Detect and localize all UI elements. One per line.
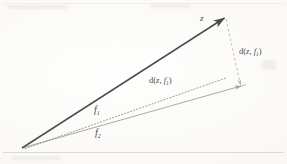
label-d-right-suffix: )	[259, 46, 262, 56]
label-f1: f1	[94, 105, 100, 115]
label-d-right-subscript: 1	[256, 51, 259, 57]
label-distance-center: d(z, f1)	[149, 76, 172, 85]
foot-tick-mark	[236, 85, 246, 89]
label-f1-subscript: 1	[97, 109, 100, 116]
label-z: z	[200, 14, 204, 23]
label-d-center-suffix: )	[169, 75, 172, 85]
f1-vector-dotted-line	[25, 78, 226, 149]
label-f2-subscript: 2	[98, 132, 101, 139]
z-vector-line	[22, 18, 225, 148]
label-z-text: z	[200, 13, 204, 23]
vector-diagram-svg	[0, 0, 287, 164]
f2-vector-line	[22, 86, 241, 148]
figure-canvas: z f1 f2 d(z, f1) d(z, f1)	[0, 0, 287, 164]
label-d-center-subscript: 1	[166, 80, 169, 86]
label-distance-right: d(z, f1)	[239, 47, 262, 56]
label-f2: f2	[95, 128, 101, 138]
